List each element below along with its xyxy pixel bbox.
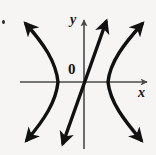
scan-speck [2, 20, 5, 24]
math-figure: y x 0 [0, 0, 156, 155]
y-axis-label: y [70, 13, 76, 27]
graph-canvas [0, 0, 156, 155]
x-axis-label: x [138, 86, 145, 100]
origin-label: 0 [68, 62, 76, 77]
